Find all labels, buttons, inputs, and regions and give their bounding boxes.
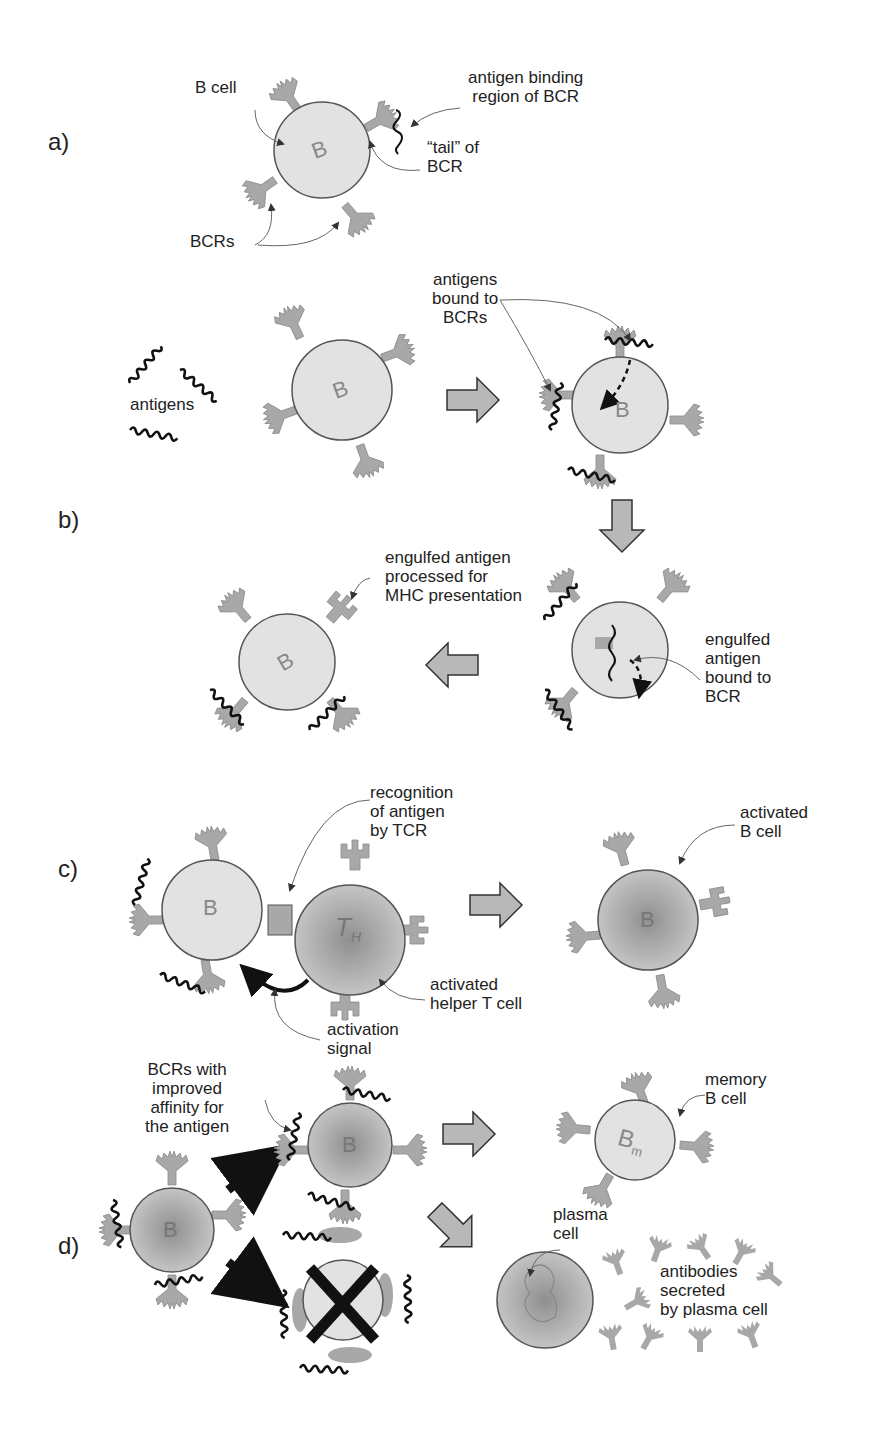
b-cell-activation-diagram bbox=[0, 0, 870, 1451]
label-antigens-bound: antigens bound to BCRs bbox=[432, 270, 498, 327]
label-bcrs: BCRs bbox=[190, 232, 234, 251]
label-activated-b-cell: activated B cell bbox=[740, 803, 808, 841]
label-activation-signal: activation signal bbox=[327, 1020, 399, 1058]
b-cell-with-bound-antigens bbox=[500, 300, 704, 490]
plasma-cell bbox=[497, 1250, 593, 1348]
label-memory-b-cell: memory B cell bbox=[705, 1070, 766, 1108]
section-label-d: d) bbox=[58, 1232, 79, 1260]
section-label-c: c) bbox=[58, 855, 78, 883]
label-antibodies-secreted: antibodies secreted by plasma cell bbox=[660, 1262, 768, 1319]
label-plasma-cell: plasma cell bbox=[553, 1205, 608, 1243]
section-label-a: a) bbox=[48, 128, 69, 156]
arrow-right-1 bbox=[447, 378, 499, 422]
arrow-right-2 bbox=[470, 883, 522, 927]
label-antigens: antigens bbox=[130, 395, 194, 414]
b-letter: B bbox=[615, 400, 630, 419]
section-label-b: b) bbox=[58, 506, 79, 534]
label-bcrs-improved-affinity: BCRs with improved affinity for the anti… bbox=[145, 1060, 229, 1136]
b-letter: B bbox=[640, 910, 655, 929]
b-letter: B bbox=[163, 1220, 178, 1239]
engulfing-b-cell bbox=[541, 564, 700, 731]
dying-b-cell bbox=[280, 1227, 412, 1374]
arrow-diag-4 bbox=[419, 1194, 487, 1262]
label-engulfed-processed: engulfed antigen processed for MHC prese… bbox=[385, 548, 522, 605]
th-letter: TH bbox=[335, 918, 361, 947]
b-letter: B bbox=[342, 1135, 357, 1154]
label-b-cell: B cell bbox=[195, 78, 237, 97]
arrow-left-1 bbox=[426, 643, 478, 687]
arrow-right-3 bbox=[443, 1112, 495, 1156]
label-antigen-binding-region: antigen binding region of BCR bbox=[468, 68, 583, 106]
black-arrow-down bbox=[228, 1262, 268, 1292]
label-tail-of-bcr: “tail” of BCR bbox=[427, 138, 479, 176]
label-activated-helper-t: activated helper T cell bbox=[430, 975, 522, 1013]
b-letter: B bbox=[203, 898, 218, 917]
arrow-down-1 bbox=[600, 500, 644, 552]
free-antigens bbox=[128, 344, 219, 441]
label-engulfed-bound: engulfed antigen bound to BCR bbox=[705, 630, 771, 706]
label-recognition-by-tcr: recognition of antigen by TCR bbox=[370, 783, 453, 840]
black-arrow-up bbox=[228, 1160, 268, 1190]
